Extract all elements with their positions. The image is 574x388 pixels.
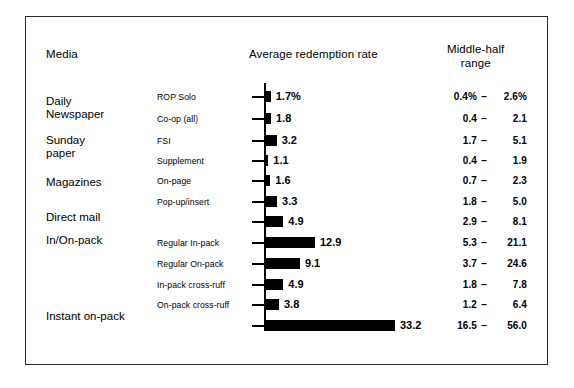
middle-half-range-value: 1.8–7.8	[447, 279, 527, 290]
bar	[264, 279, 283, 290]
group-line2: Newspaper	[46, 108, 104, 121]
axis-tick	[252, 284, 264, 286]
range-low: 1.8	[447, 279, 477, 290]
axis-tick	[252, 304, 264, 306]
bar-value-label: 3.8	[284, 298, 299, 310]
bar	[264, 175, 270, 186]
range-dash-icon: –	[477, 237, 491, 248]
range-dash-icon: –	[477, 216, 491, 227]
bar-value-label: 12.9	[320, 236, 341, 248]
range-low: 1.2	[447, 299, 477, 310]
axis-tick	[252, 160, 264, 162]
range-high: 1.9	[491, 155, 527, 166]
sub-category-label: Regular In-pack	[157, 238, 219, 248]
sub-category-label: Supplement	[157, 156, 204, 166]
media-group-label-sunday-paper: Sunday paper	[46, 134, 85, 159]
range-low: 1.8	[447, 196, 477, 207]
range-high: 5.0	[491, 196, 527, 207]
bar-value-label: 9.1	[305, 257, 320, 269]
bar-value-label: 4.9	[288, 215, 303, 227]
media-group-label-instant-on-pack: Instant on-pack	[46, 310, 125, 323]
middle-half-range-value: 0.4%–2.6%	[447, 91, 527, 102]
range-high: 2.6%	[491, 91, 527, 102]
range-high: 24.6	[491, 258, 527, 269]
axis-tick	[252, 325, 264, 327]
bar-value-label: 3.3	[282, 195, 297, 207]
bar-value-label: 1.1	[273, 154, 288, 166]
range-dash-icon: –	[477, 196, 491, 207]
bar-value-label: 3.2	[282, 134, 297, 146]
group-line1: Daily	[46, 95, 72, 107]
bar	[264, 91, 271, 102]
bar-value-label: 4.9	[288, 278, 303, 290]
middle-half-range-value: 1.8–5.0	[447, 196, 527, 207]
bar	[264, 237, 315, 248]
range-low: 3.7	[447, 258, 477, 269]
axis-tick	[252, 96, 264, 98]
range-high: 6.4	[491, 299, 527, 310]
range-high: 5.1	[491, 135, 527, 146]
range-dash-icon: –	[477, 175, 491, 186]
sub-category-label: Regular On-pack	[157, 259, 223, 269]
bar-value-label: 33.2	[400, 319, 421, 331]
group-line1: Sunday	[46, 134, 85, 146]
axis-tick	[252, 118, 264, 120]
range-high: 21.1	[491, 237, 527, 248]
sub-category-label: FSI	[157, 136, 171, 146]
bar	[264, 299, 279, 310]
bar	[264, 113, 271, 124]
group-line1: In/On-pack	[46, 234, 102, 246]
media-group-label-direct-mail: Direct mail	[46, 211, 100, 224]
middle-half-range-value: 1.2–6.4	[447, 299, 527, 310]
media-group-label-magazines: Magazines	[46, 176, 102, 189]
range-dash-icon: –	[477, 91, 491, 102]
axis-tick	[252, 221, 264, 223]
bar	[264, 258, 300, 269]
sub-category-label: In-pack cross-ruff	[157, 280, 225, 290]
range-high: 7.8	[491, 279, 527, 290]
group-line1: Instant on-pack	[46, 310, 125, 322]
middle-half-range-value: 0.4–2.1	[447, 113, 527, 124]
axis-tick	[252, 201, 264, 203]
bar-value-label: 1.7%	[276, 90, 301, 102]
bar-value-label: 1.8	[276, 112, 291, 124]
range-dash-icon: –	[477, 113, 491, 124]
range-dash-icon: –	[477, 135, 491, 146]
axis-tick	[252, 242, 264, 244]
sub-category-label: Co-op (all)	[157, 114, 198, 124]
range-low: 2.9	[447, 216, 477, 227]
middle-half-range-value: 0.7–2.3	[447, 175, 527, 186]
middle-half-range-value: 3.7–24.6	[447, 258, 527, 269]
bar	[264, 135, 277, 146]
bar-value-label: 1.6	[275, 174, 290, 186]
range-low: 0.7	[447, 175, 477, 186]
column-header-average-redemption-rate: Average redemption rate	[249, 48, 378, 60]
range-high: 2.1	[491, 113, 527, 124]
axis-tick	[252, 180, 264, 182]
range-dash-icon: –	[477, 258, 491, 269]
sub-category-label: On-page	[157, 176, 191, 186]
group-line1: Direct mail	[46, 211, 100, 223]
range-low: 5.3	[447, 237, 477, 248]
bar	[264, 216, 283, 227]
range-low: 0.4	[447, 155, 477, 166]
media-group-label-daily-newspaper: Daily Newspaper	[46, 95, 104, 120]
range-header-line2: range	[447, 56, 504, 70]
sub-category-label: ROP Solo	[157, 92, 196, 102]
range-high: 56.0	[491, 320, 527, 331]
sub-category-label: Pop-up/insert	[157, 197, 209, 207]
middle-half-range-value: 0.4–1.9	[447, 155, 527, 166]
axis-tick	[252, 140, 264, 142]
range-dash-icon: –	[477, 299, 491, 310]
bar	[264, 196, 277, 207]
range-high: 8.1	[491, 216, 527, 227]
chart-canvas: Media Average redemption rate Middle-hal…	[0, 0, 574, 388]
bar	[264, 320, 395, 331]
column-header-media: Media	[46, 48, 78, 60]
axis-tick	[252, 263, 264, 265]
bar	[264, 155, 268, 166]
group-line1: Magazines	[46, 176, 102, 188]
group-line2: paper	[46, 147, 85, 160]
range-high: 2.3	[491, 175, 527, 186]
sub-category-label: On-pack cross-ruff	[157, 300, 229, 310]
